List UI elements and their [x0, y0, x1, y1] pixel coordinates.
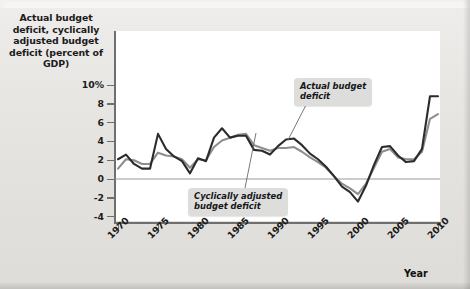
x-axis-title: Year	[404, 268, 428, 279]
series-lines	[0, 0, 470, 289]
page-shadow-right	[463, 0, 470, 289]
leader-line-actual	[288, 105, 306, 140]
annotation-cyclically-adjusted-budget-deficit: Cyclically adjusted budget deficit	[188, 188, 288, 216]
page-shadow-bottom	[0, 282, 470, 289]
figure-chart: Actual budget deficit, cyclically adjust…	[0, 0, 470, 289]
series-line-cyclically-adjusted-budget-deficit	[118, 114, 438, 194]
annotation-actual-budget-deficit: Actual budget deficit	[294, 78, 372, 106]
